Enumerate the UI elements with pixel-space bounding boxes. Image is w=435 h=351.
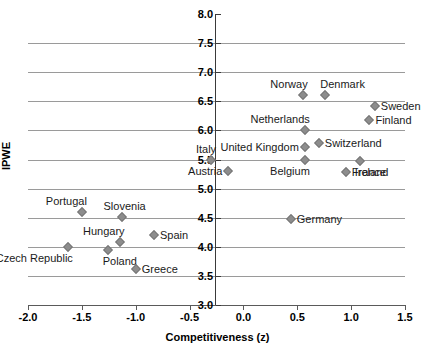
y-axis-title: IPWE [0,142,12,170]
data-point-label: Netherlands [250,114,309,125]
data-point-label: Belgium [270,165,310,176]
data-point-label: Spain [160,230,188,241]
data-point-label: Italy [196,143,216,154]
x-axis-tick [190,305,191,310]
data-point-label: Slovenia [104,200,146,211]
x-axis-tick [243,305,244,310]
x-axis-tick-label: -0.5 [180,312,199,323]
data-point-label: Switzerland [325,138,382,149]
data-point-label: Czech Republic [0,252,73,263]
y-axis-tick-label: 4.5 [198,213,213,224]
y-axis-tick [216,189,221,190]
data-point-label: Denmark [320,79,365,90]
x-axis-tick [405,305,406,310]
data-point-label: Greece [142,263,178,274]
y-axis-tick [216,14,221,15]
y-axis-tick [216,218,221,219]
data-point-label: Germany [297,214,342,225]
y-axis-tick-label: 5.0 [198,184,213,195]
x-axis-tick-label: 0.5 [290,312,305,323]
y-axis-tick-label: 3.0 [198,300,213,311]
data-point-label: Finland [375,114,411,125]
y-axis-tick-label: 8.0 [198,9,213,20]
y-axis-tick [216,247,221,248]
x-axis-tick [297,305,298,310]
x-axis-tick-label: -2.0 [19,312,38,323]
y-axis-tick-label: 7.0 [198,67,213,78]
y-axis-tick-label: 3.5 [198,271,213,282]
y-axis-tick [216,43,221,44]
data-point-label: Hungary [83,226,125,237]
data-point-label: France [352,167,386,178]
x-axis-tick [136,305,137,310]
x-axis-tick-label: 1.5 [397,312,412,323]
x-axis-tick-label: 0.0 [236,312,251,323]
y-axis-tick-label: 6.5 [198,96,213,107]
y-axis-tick [216,72,221,73]
y-axis-tick [216,305,221,306]
data-point-label: Poland [103,255,137,266]
data-point-label: United Kingdom [221,141,299,152]
y-axis-tick [216,276,221,277]
x-axis-tick [82,305,83,310]
y-axis-tick-label: 7.5 [198,38,213,49]
scatter-chart: IPWE Competitiveness (z) 8.07.57.06.56.0… [0,0,435,351]
y-axis-tick [216,101,221,102]
y-axis-tick [216,160,221,161]
x-axis-tick-label: 1.0 [343,312,358,323]
data-point-label: Austria [188,166,222,177]
y-axis-tick [216,130,221,131]
x-axis-tick [351,305,352,310]
y-axis-tick-label: 4.0 [198,242,213,253]
data-point-label: Norway [270,79,307,90]
data-point-label: Sweden [381,100,421,111]
x-axis-tick-label: -1.0 [126,312,145,323]
x-axis-tick-label: -1.5 [72,312,91,323]
x-axis-tick [28,305,29,310]
data-point-label: Portugal [46,195,87,206]
x-axis-title: Competitiveness (z) [0,331,435,343]
y-axis-tick-label: 6.0 [198,125,213,136]
